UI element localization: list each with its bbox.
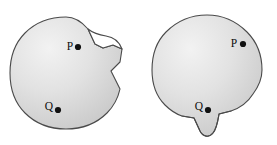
- figure-canvas: P Q P Q: [0, 0, 277, 145]
- left-point-q-label: Q: [45, 100, 54, 112]
- right-point-q-label: Q: [195, 100, 204, 112]
- left-region-group: P Q: [10, 17, 122, 129]
- regions-diagram: P Q P Q: [0, 0, 277, 145]
- left-point-q-dot: [55, 107, 61, 113]
- left-point-p-dot: [75, 44, 81, 50]
- right-region-group: P Q: [152, 15, 262, 136]
- left-region-outline: [10, 17, 122, 129]
- right-point-p-dot: [240, 41, 246, 47]
- right-point-q-dot: [205, 107, 211, 113]
- left-point-p-label: P: [67, 40, 73, 52]
- right-region-outline: [152, 15, 262, 136]
- right-point-p-label: P: [231, 37, 237, 49]
